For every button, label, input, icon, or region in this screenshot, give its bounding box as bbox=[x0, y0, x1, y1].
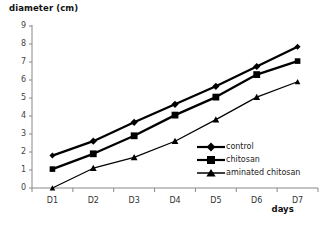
x-tick-label: D4 bbox=[160, 196, 190, 205]
chart-figure: diameter (cm) 9876543210 D1D2D3D4D5D6D7 … bbox=[0, 0, 332, 232]
y-tick-label: 2 bbox=[14, 147, 26, 156]
legend-label: aminated chitosan bbox=[226, 167, 300, 179]
y-tick-label: 3 bbox=[14, 129, 26, 138]
legend-label: chitosan bbox=[226, 154, 260, 166]
x-tick-label: D3 bbox=[119, 196, 149, 205]
square-marker-icon bbox=[196, 154, 226, 166]
y-tick-label: 4 bbox=[14, 111, 26, 120]
y-tick-label: 7 bbox=[14, 57, 26, 66]
x-tick-label: D2 bbox=[78, 196, 108, 205]
diamond-marker-icon bbox=[196, 141, 226, 153]
legend-label: control bbox=[226, 141, 254, 153]
y-tick-label: 9 bbox=[14, 21, 26, 30]
y-tick-label: 5 bbox=[14, 93, 26, 102]
legend-item-control: control bbox=[196, 140, 300, 153]
x-axis-title: days bbox=[272, 204, 294, 214]
chart-legend: control chitosan aminated chitosan bbox=[196, 140, 300, 179]
legend-item-chitosan: chitosan bbox=[196, 153, 300, 166]
x-tick-label: D6 bbox=[242, 196, 272, 205]
x-tick-label: D1 bbox=[37, 196, 67, 205]
y-tick-label: 6 bbox=[14, 75, 26, 84]
triangle-marker-icon bbox=[196, 167, 226, 179]
y-tick-label: 0 bbox=[14, 183, 26, 192]
y-tick-label: 8 bbox=[14, 39, 26, 48]
legend-item-aminated-chitosan: aminated chitosan bbox=[196, 166, 300, 179]
y-tick-label: 1 bbox=[14, 165, 26, 174]
x-tick-label: D5 bbox=[201, 196, 231, 205]
